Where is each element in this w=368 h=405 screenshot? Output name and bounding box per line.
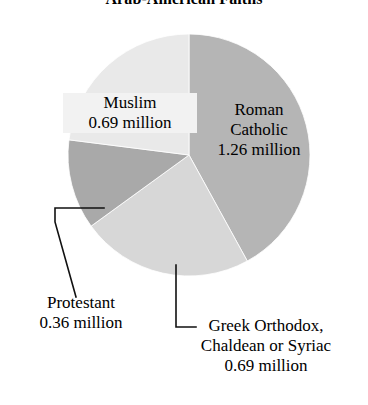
pie-label-greek-orthodox-value: 0.69 million <box>168 356 364 376</box>
pie-chart-figure: Arab-American Faiths Muslim 0.69 million… <box>0 0 368 405</box>
pie-label-muslim: Muslim 0.69 million <box>63 93 197 133</box>
pie-label-muslim-name: Muslim <box>63 93 197 113</box>
pie-label-roman-catholic-name2: Catholic <box>196 120 322 140</box>
pie-label-protestant-value: 0.36 million <box>6 313 156 333</box>
pie-label-greek-orthodox-name2: Chaldean or Syriac <box>168 336 364 356</box>
pie-label-muslim-value: 0.69 million <box>63 113 197 133</box>
pie-label-roman-catholic-value: 1.26 million <box>196 140 322 160</box>
pie-label-roman-catholic-name: Roman <box>196 100 322 120</box>
pie-label-protestant: Protestant 0.36 million <box>6 293 156 333</box>
pie-label-greek-orthodox: Greek Orthodox, Chaldean or Syriac 0.69 … <box>168 316 364 376</box>
pie-label-roman-catholic: Roman Catholic 1.26 million <box>196 100 322 160</box>
pie-label-greek-orthodox-name: Greek Orthodox, <box>168 316 364 336</box>
pie-label-protestant-name: Protestant <box>6 293 156 313</box>
